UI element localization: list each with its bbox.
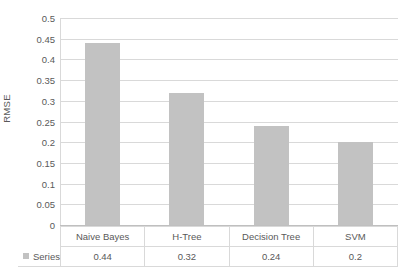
table-cell-value: 0.32 <box>145 247 229 267</box>
bar-h-tree[interactable] <box>169 93 204 225</box>
legend-swatch-icon <box>23 253 29 259</box>
table-cell-value: 0.24 <box>229 247 313 267</box>
table-cell-category: H-Tree <box>145 227 229 247</box>
y-axis-tick-label: 0.5 <box>3 13 55 24</box>
y-axis-tick-label: 0.3 <box>3 95 55 106</box>
gridline <box>60 18 398 19</box>
y-axis-tick-label: 0.25 <box>3 116 55 127</box>
y-axis-tick-label: 0.2 <box>3 137 55 148</box>
y-axis-tick-label: 0.15 <box>3 157 55 168</box>
table-corner-cell <box>18 227 61 247</box>
y-axis-tick-labels: 00.050.10.150.20.250.30.350.40.450.5 <box>0 18 55 225</box>
table-cell-category: SVM <box>313 227 397 247</box>
data-table: Naive BayesH-TreeDecision TreeSVM Series… <box>18 226 398 267</box>
table-cell-category: Naive Bayes <box>61 227 145 247</box>
y-axis-tick-label: 0.1 <box>3 178 55 189</box>
gridline <box>60 39 398 40</box>
table-cell-value: 0.44 <box>61 247 145 267</box>
bar-svm[interactable] <box>338 142 373 225</box>
table-cell-value: 0.2 <box>313 247 397 267</box>
table-row-values: Series1 0.440.320.240.2 <box>18 247 398 267</box>
y-axis-tick-label: 0.4 <box>3 54 55 65</box>
legend-series-label: Series1 <box>33 251 61 262</box>
bar-decision-tree[interactable] <box>254 126 289 225</box>
table-cell-category: Decision Tree <box>229 227 313 247</box>
y-axis-tick-label: 0.35 <box>3 75 55 86</box>
bar-chart: RMSE 00.050.10.150.20.250.30.350.40.450.… <box>0 0 412 275</box>
legend-entry: Series1 <box>18 247 61 267</box>
bar-naive-bayes[interactable] <box>85 43 120 225</box>
plot-area <box>60 18 398 225</box>
y-axis-tick-label: 0.45 <box>3 33 55 44</box>
table-row-categories: Naive BayesH-TreeDecision TreeSVM <box>18 227 398 247</box>
y-axis-tick-label: 0.05 <box>3 199 55 210</box>
